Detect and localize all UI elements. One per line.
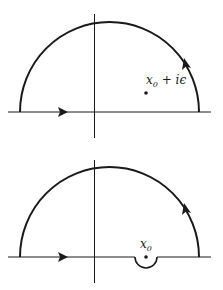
pole-label: x0 + iϵ	[146, 73, 186, 89]
semicircle-arc	[20, 22, 199, 112]
top-diagram: x0 + iϵ	[8, 14, 211, 138]
pole-point	[144, 255, 148, 259]
contour-diagrams: x0 + iϵ x0	[0, 0, 223, 290]
pole-label: x0	[140, 237, 152, 253]
pole-point	[144, 91, 148, 95]
semicircle-arc	[20, 167, 199, 257]
bottom-diagram: x0	[8, 160, 211, 283]
